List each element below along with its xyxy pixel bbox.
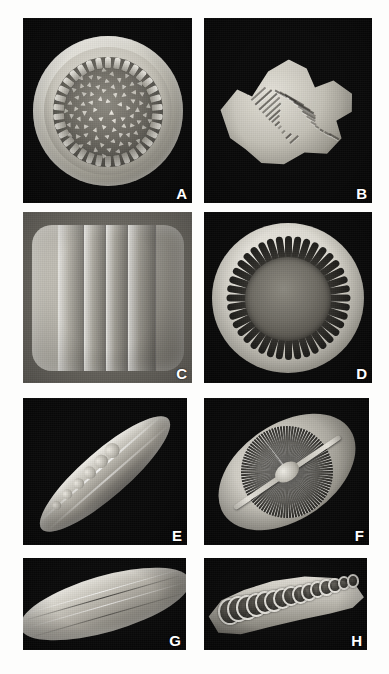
panel-label-g: G [169,633,181,648]
panel-c: C [23,212,192,383]
panel-f-scene [204,398,369,545]
valve-face [53,57,163,167]
panel-e: E [23,398,187,545]
marginal-nodules [27,399,184,544]
micrograph-plate: A B C D [0,0,389,674]
panel-label-c: C [176,366,187,381]
panel-label-b: B [356,186,367,201]
panel-d: D [204,212,372,383]
panel-f: F [204,398,369,545]
panel-b-scene [204,18,372,203]
transverse-striae [212,49,364,179]
girdle-view-frustule [32,225,184,371]
elliptical-valve [204,398,369,545]
panel-g-scene [23,558,186,650]
panel-h-scene [204,558,367,650]
panel-label-e: E [172,528,182,543]
panel-a-scene [23,18,192,203]
marginal-stria-row [31,593,184,638]
panel-c-scene [23,212,192,383]
central-area [245,257,331,341]
loculate-chambers [204,558,367,650]
panel-label-a: A [176,186,187,201]
panel-label-d: D [356,366,367,381]
panel-label-h: H [351,633,362,648]
panel-e-scene [23,398,187,545]
cruciform-frustule [212,49,364,179]
longitudinal-rib-1 [23,568,181,615]
panel-a: A [23,18,192,203]
areolae-field [53,57,163,167]
axial-groove [27,576,180,621]
panel-g: G [23,558,186,650]
panel-label-f: F [355,528,364,543]
lanceolate-valve [23,558,186,650]
panel-b: B [204,18,372,203]
panel-h: H [204,558,367,650]
panel-d-scene [204,212,372,383]
